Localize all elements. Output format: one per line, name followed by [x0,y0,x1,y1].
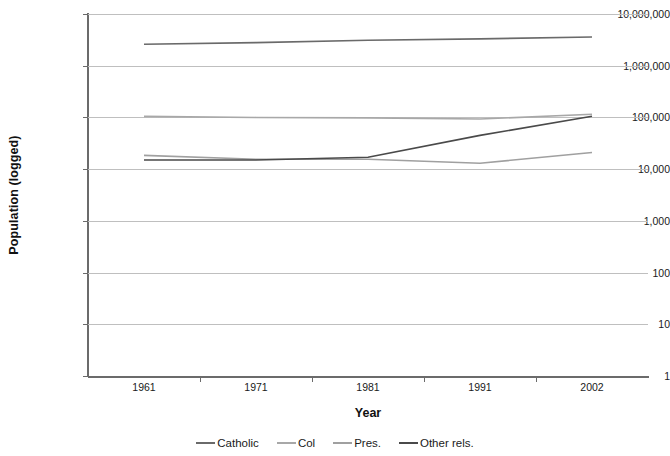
legend-label-catholic: Catholic [217,437,259,449]
legend-item-other-rels[interactable]: Other rels. [399,437,474,449]
series-layer [88,14,648,376]
legend-item-catholic[interactable]: Catholic [196,437,259,449]
plot-area [88,14,648,376]
x-tick-mark [536,377,537,382]
y-tick-mark [83,273,87,274]
y-tick-mark [83,169,87,170]
series-line-other-rels [144,116,592,160]
y-tick-mark [83,376,87,377]
y-tick-mark [83,117,87,118]
gridline [88,376,648,377]
legend-label-col: Col [298,437,315,449]
series-line-col [144,114,592,119]
y-tick-mark [83,221,87,222]
x-tick-label: 1981 [356,381,379,393]
legend-swatch-pres [333,442,352,444]
y-tick-mark [83,324,87,325]
y-tick-mark [83,66,87,67]
legend-swatch-catholic [196,442,215,444]
y-axis-title: Population (logged) [0,0,28,390]
legend-item-pres[interactable]: Pres. [333,437,381,449]
chart-legend: CatholicColPres.Other rels. [0,437,670,449]
legend-item-col[interactable]: Col [277,437,315,449]
legend-swatch-other-rels [399,442,418,444]
x-tick-label: 1991 [468,381,491,393]
x-tick-mark [312,377,313,382]
x-tick-mark [424,377,425,382]
legend-swatch-col [277,442,296,444]
y-axis-title-text: Population (logged) [7,135,21,254]
legend-label-other-rels: Other rels. [420,437,474,449]
line-chart: Population (logged) 10,000,0001,000,0001… [0,0,670,456]
series-line-catholic [144,37,592,44]
y-tick-mark [83,14,87,15]
x-axis-title: Year [88,406,648,420]
x-tick-mark [200,377,201,382]
x-tick-label: 2002 [580,381,603,393]
x-tick-label: 1971 [244,381,267,393]
x-tick-label: 1961 [132,381,155,393]
legend-label-pres: Pres. [354,437,381,449]
